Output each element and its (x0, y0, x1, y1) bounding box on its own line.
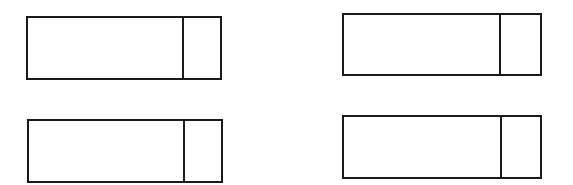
box-main-cell (29, 121, 183, 181)
box-side-cell (499, 15, 540, 74)
box-main-cell (344, 15, 499, 74)
box-side-cell (183, 121, 221, 181)
box-side-cell (500, 117, 540, 177)
box-side-cell (182, 18, 220, 78)
box-top-right (342, 13, 542, 76)
box-bottom-right (342, 115, 542, 179)
box-main-cell (344, 117, 500, 177)
box-main-cell (28, 18, 182, 78)
box-bottom-left (27, 119, 223, 183)
box-top-left (26, 16, 222, 80)
